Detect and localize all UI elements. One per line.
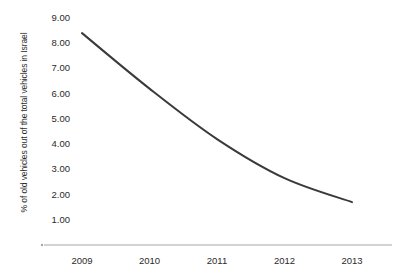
data-series-line [82, 33, 352, 202]
plot-area [0, 0, 399, 275]
line-chart: % of old vehicles out of the total vehic… [0, 0, 399, 275]
